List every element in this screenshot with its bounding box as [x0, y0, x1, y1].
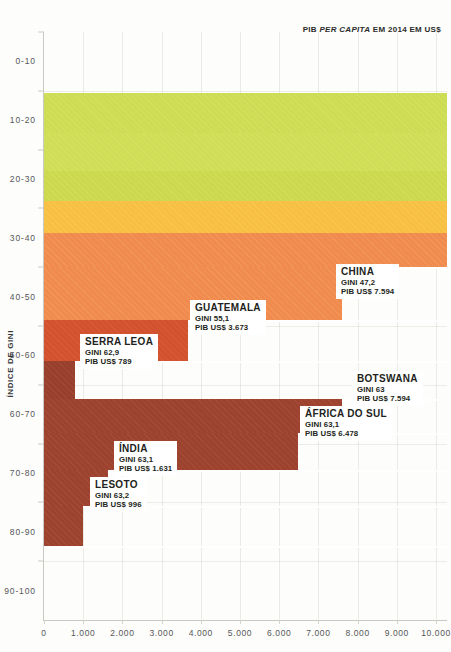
y-axis-ticks: 0-1010-2020-3030-4040-5050-6060-7070-808… [0, 0, 44, 652]
y-tick-mark [38, 561, 44, 562]
x-axis-title-italic: PER CAPITA [319, 25, 370, 34]
callout-country-name: LESOTO [95, 479, 142, 491]
y-tick-mark [38, 384, 44, 385]
callout-gdp-value: PIB US$ 1.631 [119, 464, 172, 473]
y-tick-label: 20-30 [10, 174, 36, 184]
callout-gini-value: GINI 62,9 [85, 348, 153, 357]
callout-serra-leoa: SERRA LEOAGINI 62,9PIB US$ 789 [80, 334, 158, 369]
x-tick-label: 0 [41, 628, 46, 638]
x-tick-mark [240, 620, 241, 624]
bar-band [44, 93, 447, 133]
y-tick-label: 0-10 [15, 56, 36, 66]
y-axis-title: ÍNDICE DE GINI [6, 330, 15, 398]
callout-gdp-value: PIB US$ 996 [95, 500, 142, 509]
gridline-horizontal [44, 91, 447, 92]
y-tick-mark [38, 32, 44, 33]
callout-country-name: BOTSWANA [357, 373, 418, 385]
y-tick-mark [38, 502, 44, 503]
y-tick-mark [38, 267, 44, 268]
bar-lesoto [44, 506, 83, 546]
y-tick-label: 70-80 [10, 468, 36, 478]
x-tick-mark [44, 620, 45, 624]
x-tick-mark [122, 620, 123, 624]
bar-band [44, 171, 447, 201]
callout-country-name: GUATEMALA [195, 302, 261, 314]
callout-gdp-value: PIB US$ 7.594 [357, 394, 418, 403]
x-tick-label: 1.000 [71, 628, 95, 638]
y-tick-mark [38, 149, 44, 150]
x-tick-label: 7.000 [306, 628, 330, 638]
bar-band [44, 201, 447, 233]
x-tick-mark [201, 620, 202, 624]
callout-gdp-value: PIB US$ 789 [85, 357, 153, 366]
callout-country-name: CHINA [341, 266, 394, 278]
y-tick-mark [38, 208, 44, 209]
x-axis-title-suffix: EM 2014 EM US$ [370, 25, 441, 34]
callout-gini-value: GINI 63,2 [95, 491, 142, 500]
x-tick-label: 6.000 [267, 628, 291, 638]
bar-botswana [44, 399, 342, 433]
y-tick-label: 30-40 [10, 233, 36, 243]
y-tick-label: 90-100 [4, 586, 36, 596]
x-tick-mark [318, 620, 319, 624]
callout-india: ÍNDIAGINI 63,1PIB US$ 1.631 [114, 441, 177, 476]
callout-gini-value: GINI 47,2 [341, 278, 394, 287]
callout-guatemala: GUATEMALAGINI 55,1PIB US$ 3.673 [190, 300, 266, 335]
x-tick-mark [358, 620, 359, 624]
x-tick-mark [162, 620, 163, 624]
x-tick-label: 4.000 [189, 628, 213, 638]
x-axis-title-prefix: PIB [303, 25, 320, 34]
y-tick-label: 10-20 [10, 115, 36, 125]
x-tick-mark [436, 620, 437, 624]
y-tick-label: 80-90 [10, 527, 36, 537]
x-tick-label: 8.000 [345, 628, 369, 638]
callout-country-name: SERRA LEOA [85, 336, 153, 348]
x-tick-label: 2.000 [110, 628, 134, 638]
x-axis-title: PIB PER CAPITA EM 2014 EM US$ [303, 25, 441, 34]
bar-band [44, 233, 447, 267]
y-tick-mark [38, 443, 44, 444]
x-tick-mark [83, 620, 84, 624]
gridline-horizontal [44, 561, 447, 562]
callout-country-name: ÁFRICA DO SUL [305, 408, 387, 420]
callout-gdp-value: PIB US$ 3.673 [195, 323, 261, 332]
callout-china: CHINAGINI 47,2PIB US$ 7.594 [336, 264, 399, 299]
callout-africa-do-sul: ÁFRICA DO SULGINI 63,1PIB US$ 6.478 [300, 406, 392, 441]
callout-lesoto: LESOTOGINI 63,2PIB US$ 996 [90, 477, 147, 512]
x-tick-label: 10.000 [421, 628, 451, 638]
x-tick-label: 5.000 [228, 628, 252, 638]
x-tick-mark [279, 620, 280, 624]
callout-gini-value: GINI 63,1 [119, 455, 172, 464]
y-tick-label: 60-70 [10, 409, 36, 419]
callout-gini-value: GINI 55,1 [195, 314, 261, 323]
callout-gini-value: GINI 63,1 [305, 420, 387, 429]
bar-serra-leoa [44, 361, 75, 399]
y-tick-label: 40-50 [10, 292, 36, 302]
y-tick-mark [38, 326, 44, 327]
callout-country-name: ÍNDIA [119, 443, 172, 455]
x-tick-label: 9.000 [385, 628, 409, 638]
x-axis-ticks: 01.0002.0003.0004.0005.0006.0007.0008.00… [0, 620, 447, 652]
callout-gini-value: GINI 63 [357, 385, 418, 394]
callout-gdp-value: PIB US$ 7.594 [341, 287, 394, 296]
callout-gdp-value: PIB US$ 6.478 [305, 429, 387, 438]
x-tick-label: 3.000 [149, 628, 173, 638]
callout-botswana: BOTSWANAGINI 63PIB US$ 7.594 [352, 371, 423, 406]
bar-band [44, 133, 447, 171]
y-tick-mark [38, 90, 44, 91]
x-tick-mark [397, 620, 398, 624]
bar-separator [44, 546, 447, 548]
